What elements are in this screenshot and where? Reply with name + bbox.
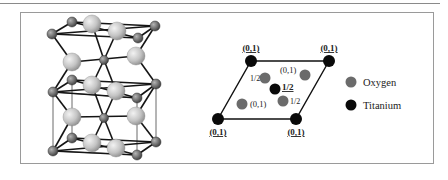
- legend-label-oxygen: Oxygen: [363, 77, 397, 88]
- oxygen-legend-marker: [346, 77, 357, 88]
- oxygen-label-bottom: (0,1): [250, 99, 266, 109]
- oxygen-label-top: (0,1): [280, 65, 296, 75]
- center-height-label: 1/2: [282, 82, 294, 92]
- legend-label-titanium: Titanium: [363, 100, 401, 111]
- figure-canvas: (0,1) (0,1) (0,1) (0,1) 1/2 1/2 (0,1) (0…: [0, 0, 448, 180]
- corner-label-bottom-right: (0,1): [287, 127, 304, 137]
- oxygen-label-right-lower: 1/2: [290, 97, 300, 106]
- oxygen-label-left-upper: 1/2: [250, 74, 260, 83]
- legend: Oxygen Titanium: [346, 77, 402, 112]
- corner-label-bottom-left: (0,1): [209, 127, 226, 137]
- projection-titanium-atoms: [212, 55, 335, 125]
- corner-label-top-left: (0,1): [242, 43, 259, 53]
- corner-label-top-right: (0,1): [320, 43, 337, 53]
- crystal-structure: [47, 15, 161, 160]
- titanium-legend-marker: [346, 100, 357, 111]
- projection-diagram: (0,1) (0,1) (0,1) (0,1) 1/2 1/2 (0,1) (0…: [209, 43, 337, 137]
